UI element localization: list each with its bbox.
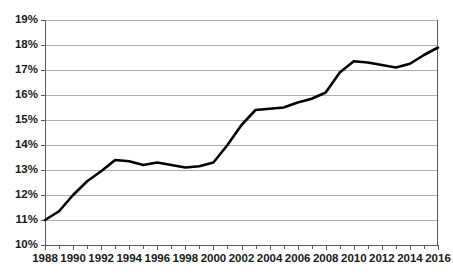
x-axis-tick-label: 1988 xyxy=(32,252,58,264)
x-axis-tick-label: 1992 xyxy=(88,252,114,264)
x-axis-tick-label: 1998 xyxy=(173,252,199,264)
x-axis-tick-label: 2010 xyxy=(341,252,367,264)
x-axis-tick-label: 2016 xyxy=(425,252,451,264)
y-axis-tick-label: 11% xyxy=(16,213,38,225)
y-axis-tick-label: 15% xyxy=(15,113,38,125)
x-axis-tick-label: 2012 xyxy=(369,252,395,264)
y-axis-tick-label: 18% xyxy=(15,38,38,50)
x-axis-tick-label: 1996 xyxy=(144,252,170,264)
y-axis-tick-label: 14% xyxy=(15,138,38,150)
y-axis-tick-label: 16% xyxy=(15,88,38,100)
x-axis-tick-label: 2006 xyxy=(285,252,311,264)
x-axis-tick-label: 2002 xyxy=(229,252,255,264)
line-chart: 10%11%12%13%14%15%16%17%18%19% 198819901… xyxy=(0,0,453,275)
y-axis-tick-label: 13% xyxy=(15,163,38,175)
y-axis-ticks-group xyxy=(41,21,45,246)
x-axis-labels-group: 1988199019921994199619982000200220042006… xyxy=(32,252,451,264)
x-axis-tick-label: 1990 xyxy=(60,252,86,264)
x-axis-tick-label: 2014 xyxy=(397,252,423,264)
x-axis-tick-label: 2004 xyxy=(257,252,283,264)
gridlines-group xyxy=(45,21,438,221)
x-axis-tick-label: 2000 xyxy=(201,252,227,264)
data-series-line xyxy=(45,48,438,221)
y-axis-tick-label: 12% xyxy=(15,188,38,200)
y-axis-tick-label: 10% xyxy=(15,238,38,250)
y-axis-labels-group: 10%11%12%13%14%15%16%17%18%19% xyxy=(15,13,38,250)
chart-canvas: 10%11%12%13%14%15%16%17%18%19% 198819901… xyxy=(0,0,453,275)
y-axis-tick-label: 19% xyxy=(15,13,38,25)
x-axis-tick-label: 2008 xyxy=(313,252,339,264)
x-axis-tick-label: 1994 xyxy=(116,252,142,264)
y-axis-tick-label: 17% xyxy=(15,63,38,75)
